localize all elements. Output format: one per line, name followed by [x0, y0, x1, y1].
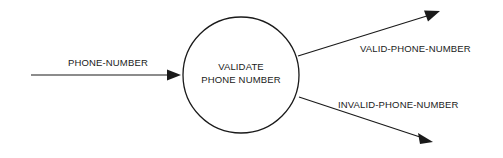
arrowhead-icon-invalid-phone-number	[418, 133, 433, 144]
flow-arrow-phone-number[interactable]	[31, 70, 181, 81]
arrowhead-icon-valid-phone-number	[424, 11, 440, 22]
flow-label-invalid-phone-number: INVALID-PHONE-NUMBER	[338, 100, 459, 110]
arrowhead-icon-phone-number	[167, 70, 181, 81]
flow-label-valid-phone-number: VALID-PHONE-NUMBER	[360, 44, 471, 54]
process-label-line-1: VALIDATE	[181, 60, 301, 73]
flow-label-phone-number: PHONE-NUMBER	[68, 58, 148, 68]
process-label-line-2: PHONE NUMBER	[181, 73, 301, 86]
data-flow-diagram: VALIDATE PHONE NUMBER PHONE-NUMBER VALID…	[0, 0, 503, 158]
